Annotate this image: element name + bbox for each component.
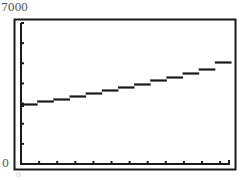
screen-frame bbox=[15, 20, 236, 170]
start-point bbox=[20, 103, 24, 107]
data-curve bbox=[20, 63, 232, 108]
calculator-graph-screen bbox=[0, 0, 240, 180]
